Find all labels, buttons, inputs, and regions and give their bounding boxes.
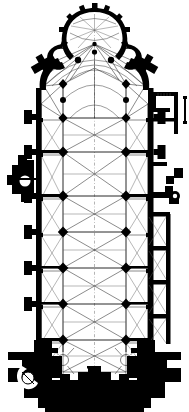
cathedral-floor-plan <box>0 0 189 412</box>
floor-plan-canvas <box>0 0 189 412</box>
